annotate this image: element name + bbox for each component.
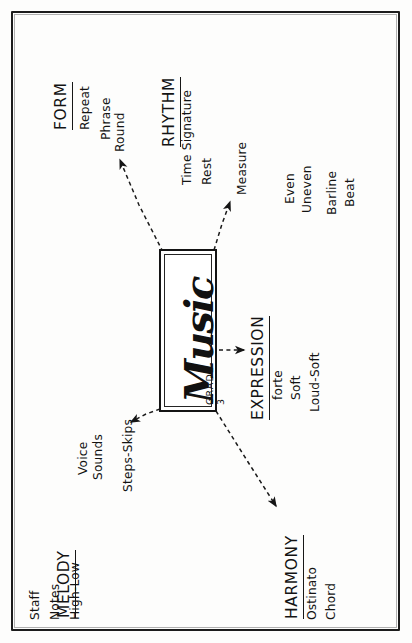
term-expression-forte: forte bbox=[271, 370, 285, 400]
worksheet-page: Music GRADE-3 FORM Repeat Phrase Round R… bbox=[0, 0, 412, 643]
term-form-round: Round bbox=[113, 112, 127, 152]
term-melody-steps-skips: Steps-Skips bbox=[121, 419, 135, 492]
section-heading-harmony: HARMONY bbox=[283, 535, 304, 619]
term-harmony-ostinato: Ostinato bbox=[305, 567, 319, 620]
term-rhythm-beat: Beat bbox=[343, 178, 357, 207]
section-heading-rhythm: RHYTHM bbox=[160, 77, 181, 147]
term-rhythm-barline: Barline bbox=[325, 171, 339, 215]
term-harmony-chord: Chord bbox=[324, 583, 338, 620]
term-melody-staff: Staff bbox=[28, 590, 42, 620]
term-expression-loud-soft: Loud-Soft bbox=[308, 352, 322, 412]
term-melody-sounds: Sounds bbox=[91, 434, 105, 480]
section-heading-form: FORM bbox=[52, 82, 73, 130]
term-rhythm-measure: Measure bbox=[235, 142, 249, 195]
term-rhythm-uneven: Uneven bbox=[300, 165, 314, 213]
term-melody-notes: Notes bbox=[48, 584, 62, 620]
title-card: Music GRADE-3 bbox=[159, 249, 217, 412]
grade-label: GRADE-3 bbox=[204, 362, 226, 405]
term-rhythm-rest: Rest bbox=[200, 158, 214, 185]
term-form-phrase: Phrase bbox=[99, 97, 113, 140]
section-heading-expression: EXPRESSION bbox=[249, 316, 270, 420]
term-form-repeat: Repeat bbox=[78, 86, 92, 130]
term-rhythm-even: Even bbox=[283, 173, 297, 204]
term-melody-high-low: High-Low bbox=[68, 562, 82, 620]
term-rhythm-time-signature: Time Signature bbox=[180, 90, 194, 185]
term-expression-soft: Soft bbox=[289, 375, 303, 400]
term-melody-voice: Voice bbox=[76, 442, 90, 475]
